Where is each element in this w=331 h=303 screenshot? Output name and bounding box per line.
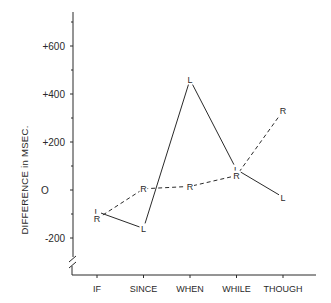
x-tick-label: THOUGH [264, 284, 303, 294]
x-tick-label: SINCE [130, 284, 158, 294]
data-point-marker: R [233, 171, 240, 181]
series-l: LLLLL [93, 75, 287, 234]
x-tick-label: WHEN [176, 284, 204, 294]
series-line [97, 80, 283, 229]
data-point-marker: L [141, 224, 146, 234]
y-tick-label: +600 [42, 41, 65, 52]
y-tick-label: +200 [42, 137, 65, 148]
x-tick-label: IF [93, 284, 102, 294]
data-point-marker: L [187, 75, 192, 85]
data-point-marker: R [140, 184, 147, 194]
x-axis: IFSINCEWHENWHILETHOUGH [72, 275, 316, 294]
series-r: RRRRR [93, 106, 287, 225]
y-axis-title: DIFFERENCE in MSEC. [19, 125, 30, 234]
series-line [97, 111, 283, 219]
series-layer: LLLLLRRRRR [93, 75, 287, 234]
data-point-marker: L [280, 193, 285, 203]
y-tick-label: +400 [42, 89, 65, 100]
y-axis: +600+400+200O-200 [41, 12, 76, 275]
y-tick-label: -200 [45, 233, 65, 244]
y-tick-label: O [41, 185, 49, 196]
line-chart: +600+400+200O-200 IFSINCEWHENWHILETHOUGH… [0, 0, 331, 303]
data-point-marker: R [94, 214, 101, 224]
x-tick-label: WHILE [222, 284, 251, 294]
data-point-marker: R [187, 182, 194, 192]
data-point-marker: R [280, 106, 287, 116]
